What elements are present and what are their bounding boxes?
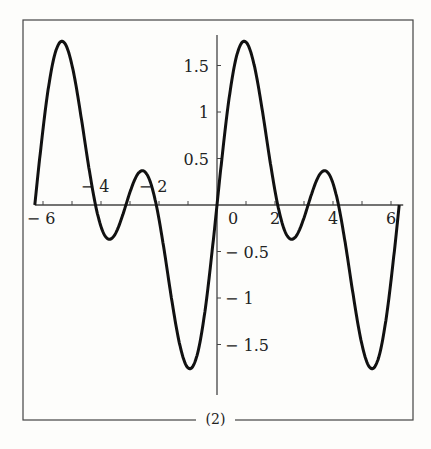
svg-text:1.5: 1.5 <box>184 57 209 76</box>
svg-text:− 1.5: − 1.5 <box>225 336 269 355</box>
svg-text:4: 4 <box>328 209 338 228</box>
svg-text:− 0.5: − 0.5 <box>225 243 269 262</box>
chart: − 6− 4− 20246− 1.5− 1− 0.50.511.5 <box>0 0 431 449</box>
svg-text:− 4: − 4 <box>81 177 110 196</box>
figure-caption: (2) <box>0 411 431 427</box>
svg-text:− 6: − 6 <box>27 209 56 228</box>
svg-text:6: 6 <box>386 209 396 228</box>
svg-text:0.5: 0.5 <box>184 150 209 169</box>
svg-text:− 1: − 1 <box>225 289 254 308</box>
svg-text:1: 1 <box>199 103 209 122</box>
svg-text:0: 0 <box>228 209 238 228</box>
frame <box>23 20 413 420</box>
